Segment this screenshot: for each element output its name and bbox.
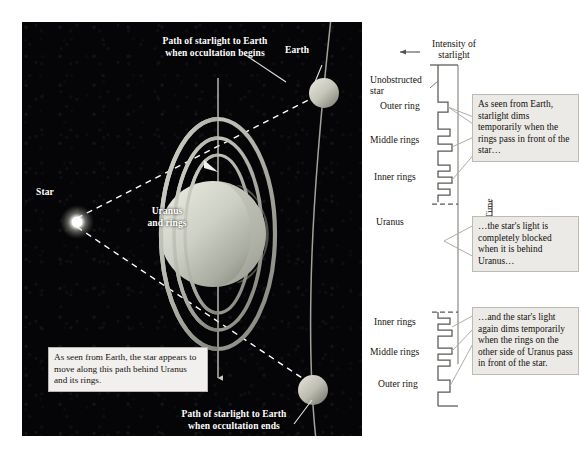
- label-earth: Earth: [285, 45, 309, 57]
- trace-label-outer-ring-bottom: Outer ring: [378, 378, 418, 389]
- path-end-line1: Path of starlight to Earth: [182, 409, 287, 419]
- space-scene-panel: Path of starlight to Earth when occultat…: [22, 22, 362, 436]
- callout-rings-dim-first: As seen from Earth, starlight dims tempo…: [472, 94, 579, 162]
- star-core: [72, 217, 82, 227]
- light-curve-panel: Intensity of starlight Time Unobstructed…: [372, 26, 578, 426]
- callout-uranus-blocks: …the star's light is completely blocked …: [472, 216, 579, 272]
- uranus-line2: and rings: [147, 218, 186, 228]
- label-path-occultation-ends: Path of starlight to Earth when occultat…: [149, 409, 319, 432]
- unobstructed-line1: Unobstructed: [370, 74, 422, 85]
- intensity-title-line2: starlight: [438, 49, 469, 60]
- unobstructed-line2: star: [370, 85, 384, 96]
- intensity-title-line1: Intensity of: [432, 38, 476, 49]
- trace-label-inner-rings-top: Inner rings: [374, 171, 416, 182]
- label-uranus-and-rings: Uranus and rings: [127, 206, 207, 229]
- scene-callout-apparent-path: As seen from Earth, the star appears to …: [48, 347, 208, 392]
- label-path-occultation-begins: Path of starlight to Earth when occultat…: [135, 36, 295, 59]
- uranus-line1: Uranus: [152, 206, 183, 216]
- callout-rings-dim-second: …and the star's light again dims tempora…: [472, 307, 579, 375]
- earth-lower: [298, 375, 328, 405]
- path-begin-line1: Path of starlight to Earth: [163, 36, 268, 46]
- path-end-line2: when occultation ends: [188, 421, 280, 431]
- trace-label-middle-rings-bottom: Middle rings: [370, 346, 419, 357]
- trace-label-inner-rings-bottom: Inner rings: [374, 316, 416, 327]
- label-star: Star: [36, 187, 54, 199]
- trace-label-unobstructed: Unobstructed star: [370, 74, 422, 96]
- intensity-axis-title: Intensity of starlight: [416, 38, 492, 60]
- path-begin-line2: when occultation begins: [165, 48, 264, 58]
- earth-upper: [309, 78, 339, 108]
- trace-label-middle-rings-top: Middle rings: [370, 134, 419, 145]
- trace-label-uranus: Uranus: [376, 216, 404, 227]
- trace-label-outer-ring-top: Outer ring: [380, 100, 420, 111]
- unobstructed-tick: [430, 81, 438, 88]
